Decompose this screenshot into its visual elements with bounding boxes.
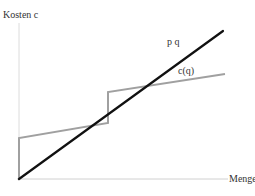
revenue-line-label: p q bbox=[167, 37, 180, 47]
cost-line-cq bbox=[19, 74, 225, 178]
x-axis-label: Menge q bbox=[229, 174, 255, 184]
cost-line-label: c(q) bbox=[178, 66, 194, 76]
y-axis-label: Kosten c bbox=[3, 10, 38, 20]
cost-revenue-chart: Kosten c p q c(q) Menge q bbox=[0, 0, 255, 196]
chart-canvas bbox=[0, 0, 255, 196]
revenue-line-pq bbox=[19, 31, 223, 179]
